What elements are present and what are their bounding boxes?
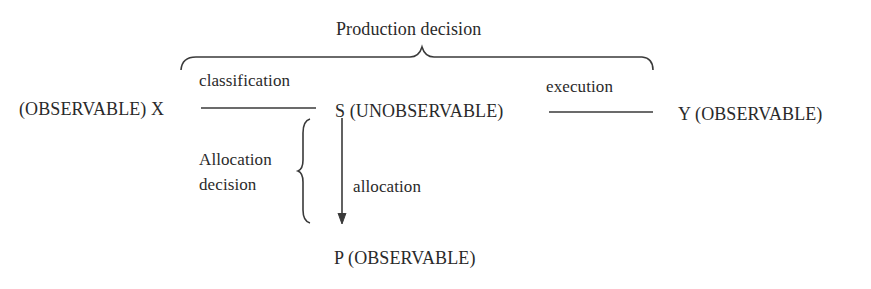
classification-label: classification — [199, 71, 290, 91]
node-x: (OBSERVABLE) X — [19, 99, 164, 119]
execution-label: execution — [546, 77, 613, 97]
node-p: P (OBSERVABLE) — [334, 248, 475, 268]
node-y: Y (OBSERVABLE) — [678, 104, 822, 124]
allocation-label: allocation — [353, 177, 421, 197]
allocation-decision-line2: decision — [199, 175, 256, 195]
node-s: S (UNOBSERVABLE) — [335, 101, 503, 121]
production-decision-label: Production decision — [336, 19, 481, 39]
allocation-arrow-head — [338, 213, 346, 224]
allocation-decision-brace — [298, 119, 310, 223]
allocation-decision-line1: Allocation — [199, 150, 272, 170]
production-decision-brace — [181, 47, 653, 70]
diagram-connectors — [0, 0, 871, 289]
